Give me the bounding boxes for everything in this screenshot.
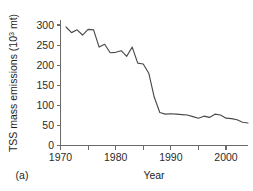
data-series-line — [66, 27, 248, 123]
x-axis-tick-labels: 1970198019902000 — [49, 151, 238, 163]
x-tick-label: 2000 — [214, 151, 238, 163]
x-axis-title: Year — [143, 169, 165, 181]
line-chart: 050100150200250300 1970198019902000 TSS … — [0, 0, 253, 191]
y-tick-label: 200 — [36, 59, 54, 71]
y-tick-label: 250 — [36, 39, 54, 51]
panel-label: (a) — [16, 169, 29, 181]
y-axis-tick-labels: 050100150200250300 — [36, 19, 54, 152]
figure-panel-a: 050100150200250300 1970198019902000 TSS … — [0, 0, 253, 191]
y-tick-label: 300 — [36, 19, 54, 31]
y-tick-label: 50 — [42, 119, 54, 131]
y-tick-label: 150 — [36, 79, 54, 91]
x-axis-ticks — [61, 146, 227, 150]
x-tick-label: 1990 — [159, 151, 183, 163]
x-tick-label: 1980 — [104, 151, 128, 163]
y-tick-label: 0 — [48, 139, 54, 151]
y-axis-title: TSS mass emissions (103 mt) — [7, 14, 19, 152]
y-tick-label: 100 — [36, 99, 54, 111]
x-tick-label: 1970 — [49, 151, 73, 163]
